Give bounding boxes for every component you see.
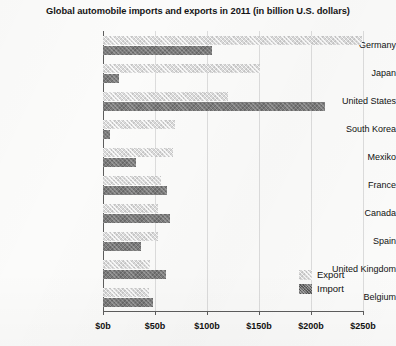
- bar-export-germany: [103, 36, 362, 45]
- gridline-$100b: [207, 31, 208, 311]
- bar-import-spain: [103, 242, 141, 251]
- bar-export-japan: [103, 64, 260, 73]
- legend-label-import: Import: [317, 283, 344, 294]
- bar-chart: Global automobile imports and exports in…: [0, 0, 396, 346]
- legend-item-export: Export: [299, 268, 344, 281]
- legend-swatch-import: [299, 284, 312, 294]
- bar-export-belgium: [103, 288, 149, 297]
- bar-export-mexiko: [103, 148, 173, 157]
- category-label-france: France: [296, 180, 396, 190]
- legend-swatch-export: [299, 270, 312, 280]
- x-tick-mark: [259, 311, 260, 315]
- x-tick-mark: [155, 311, 156, 315]
- category-label-mexiko: Mexiko: [296, 152, 396, 162]
- bar-export-france: [103, 176, 161, 185]
- bar-import-germany: [103, 46, 212, 55]
- category-label-south-korea: South Korea: [296, 124, 396, 134]
- bar-export-spain: [103, 232, 158, 241]
- category-label-japan: Japan: [296, 68, 396, 78]
- category-label-canada: Canada: [296, 208, 396, 218]
- x-tick-label: $0b: [95, 321, 111, 331]
- x-tick-label: $250b: [350, 321, 376, 331]
- x-tick-label: $200b: [298, 321, 324, 331]
- legend-label-export: Export: [317, 269, 344, 280]
- bar-import-united-kingdom: [103, 270, 166, 279]
- x-tick-label: $50b: [145, 321, 166, 331]
- bar-import-japan: [103, 74, 119, 83]
- bar-export-united-kingdom: [103, 260, 150, 269]
- bar-import-belgium: [103, 298, 153, 307]
- x-tick-mark: [103, 311, 104, 315]
- category-label-spain: Spain: [296, 236, 396, 246]
- bar-import-united-states: [103, 102, 325, 111]
- x-tick-mark: [311, 311, 312, 315]
- legend-item-import: Import: [299, 282, 344, 295]
- chart-title: Global automobile imports and exports in…: [0, 6, 396, 16]
- x-tick-mark: [207, 311, 208, 315]
- x-tick-mark: [363, 311, 364, 315]
- bar-export-united-states: [103, 92, 228, 101]
- legend: ExportImport: [299, 268, 344, 296]
- x-tick-label: $100b: [194, 321, 220, 331]
- bar-import-south-korea: [103, 130, 110, 139]
- bar-import-canada: [103, 214, 170, 223]
- bar-export-south-korea: [103, 120, 175, 129]
- gridline-$150b: [259, 31, 260, 311]
- bar-import-mexiko: [103, 158, 136, 167]
- bar-export-canada: [103, 204, 158, 213]
- bar-import-france: [103, 186, 167, 195]
- x-tick-label: $150b: [246, 321, 272, 331]
